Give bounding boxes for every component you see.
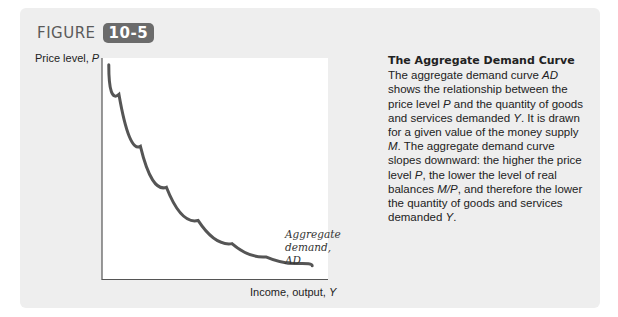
caption-body: The aggregate demand curve AD shows the …	[388, 69, 583, 223]
caption-title: The Aggregate Demand Curve	[388, 54, 575, 67]
x-axis-variable: Y	[329, 286, 336, 298]
curve-label-line-1: Aggregate	[285, 228, 341, 241]
x-axis-label: Income, output, Y	[250, 286, 336, 298]
curve-label-line-3: AD	[285, 254, 341, 267]
curve-label-line-2: demand,	[285, 241, 341, 254]
figure-caption: The Aggregate Demand Curve The aggregate…	[388, 53, 583, 224]
aggregate-demand-curve	[109, 65, 312, 266]
curve-label: Aggregate demand, AD	[285, 228, 341, 267]
x-axis-label-text: Income, output,	[250, 286, 329, 298]
